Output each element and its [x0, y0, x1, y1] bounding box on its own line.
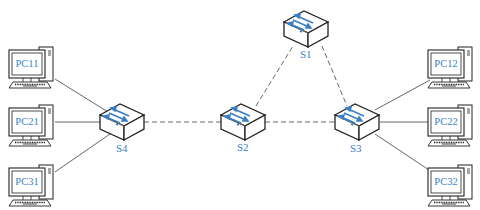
pc21-label: PC21: [12, 116, 42, 127]
switch-s3-label: S3: [350, 142, 362, 154]
link-s3-pc32: [375, 134, 432, 172]
pc22-label: PC22: [431, 116, 461, 127]
pc32-label: PC32: [431, 176, 461, 187]
link-pc31-s4: [55, 134, 110, 172]
pc12-label: PC12: [431, 58, 461, 69]
network-diagram: [0, 0, 480, 210]
pc31-label: PC31: [12, 176, 42, 187]
pc11-label: PC11: [12, 58, 42, 69]
link-pc11-s4: [55, 79, 108, 112]
switch-s4-icon: [100, 104, 144, 140]
switch-s4-label: S4: [116, 142, 128, 154]
switch-s1-icon: [284, 11, 328, 47]
switch-s1-label: S1: [300, 48, 312, 60]
switch-s2-label: S2: [237, 141, 249, 153]
link-s2-s1: [256, 46, 293, 106]
link-s3-pc12: [375, 80, 430, 110]
switch-s2-icon: [221, 104, 265, 140]
link-s1-s3: [322, 46, 347, 106]
switch-s3-icon: [335, 104, 379, 140]
